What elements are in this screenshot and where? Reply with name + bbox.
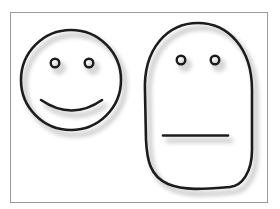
illustration-canvas <box>0 0 280 209</box>
picture-frame <box>11 13 268 203</box>
